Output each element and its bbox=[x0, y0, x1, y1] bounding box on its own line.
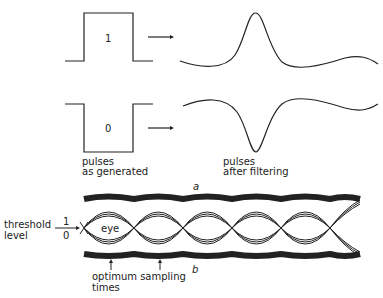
diagram-canvas bbox=[0, 0, 383, 298]
arrowhead-icon bbox=[170, 126, 174, 130]
sampling-label-1: optimum sampling bbox=[92, 271, 186, 282]
pulse-one-filtered bbox=[180, 13, 378, 67]
arrowhead-icon bbox=[170, 35, 174, 39]
sublabel-a: a bbox=[193, 181, 199, 192]
caption-generated-2: as generated bbox=[82, 166, 148, 177]
caption-filtered-2: after filtering bbox=[223, 166, 289, 177]
threshold-label-2: level bbox=[4, 230, 28, 241]
eye-label: eye bbox=[101, 223, 119, 234]
pulse-zero-filtered bbox=[183, 99, 378, 152]
threshold-label-1: threshold bbox=[4, 219, 51, 230]
sublabel-b: b bbox=[192, 264, 198, 275]
pulse-zero-label: 0 bbox=[105, 123, 111, 134]
level-zero: 0 bbox=[63, 230, 69, 241]
pulse-one-label: 1 bbox=[105, 33, 111, 44]
level-one: 1 bbox=[63, 216, 69, 227]
sampling-label-2: times bbox=[92, 282, 120, 293]
